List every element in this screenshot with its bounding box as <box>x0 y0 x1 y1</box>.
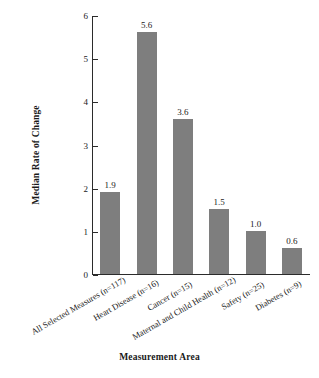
bar[interactable]: 0.6 <box>282 248 302 274</box>
y-tick: 4 <box>92 102 98 103</box>
y-tick-label: 3 <box>84 141 89 150</box>
y-tick-label: 4 <box>84 98 89 107</box>
y-tick-label: 6 <box>84 12 89 21</box>
bar-value-label: 1.5 <box>214 198 225 207</box>
y-tick: 1 <box>92 232 98 233</box>
bar[interactable]: 5.6 <box>137 32 157 274</box>
y-tick: 2 <box>92 189 98 190</box>
y-tick-mark <box>93 232 98 233</box>
bar[interactable]: 3.6 <box>173 119 193 274</box>
y-tick-mark <box>93 59 98 60</box>
y-tick-label: 5 <box>84 55 89 64</box>
y-tick-label: 1 <box>84 227 89 236</box>
bar[interactable]: 1.5 <box>209 209 229 274</box>
x-axis-title: Measurement Area <box>0 352 319 362</box>
y-axis-title: Median Rate of Change <box>31 70 41 240</box>
plot-area: 0123456 1.95.63.61.51.00.6 <box>92 16 310 275</box>
bar-value-label: 5.6 <box>141 21 152 30</box>
bar-chart-figure: Median Rate of Change 0123456 1.95.63.61… <box>0 0 319 378</box>
bar[interactable]: 1.0 <box>246 231 266 274</box>
bar-value-label: 1.9 <box>105 181 116 190</box>
y-tick-mark <box>93 146 98 147</box>
y-tick-mark <box>93 275 98 276</box>
y-tick-mark <box>93 189 98 190</box>
y-tick-mark <box>93 16 98 17</box>
bar-value-label: 1.0 <box>250 220 261 229</box>
y-tick: 0 <box>92 275 98 276</box>
bar-value-label: 3.6 <box>177 108 188 117</box>
y-tick: 6 <box>92 16 98 17</box>
y-tick-label: 2 <box>84 184 89 193</box>
bar[interactable]: 1.9 <box>100 192 120 274</box>
y-tick-mark <box>93 102 98 103</box>
y-tick-label: 0 <box>84 271 89 280</box>
x-axis-spine <box>92 274 310 275</box>
y-tick: 5 <box>92 59 98 60</box>
bar-value-label: 0.6 <box>286 237 297 246</box>
y-tick: 3 <box>92 146 98 147</box>
